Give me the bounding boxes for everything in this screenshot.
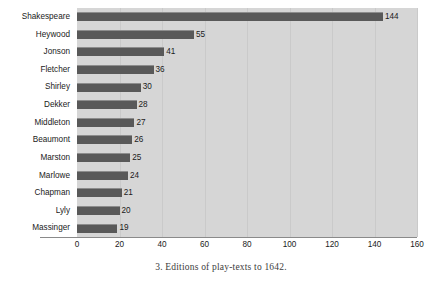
bar-value-label: 41	[164, 43, 175, 60]
bar-container: 55	[77, 26, 417, 43]
bar	[77, 188, 122, 197]
bar-row: Lyly20	[0, 202, 442, 219]
bar-row: Marlowe24	[0, 167, 442, 184]
category-label: Middleton	[0, 114, 70, 131]
x-axis-line	[40, 237, 417, 238]
bar-value-label: 25	[130, 149, 141, 166]
category-label: Marlowe	[0, 167, 70, 184]
category-label: Heywood	[0, 26, 70, 43]
bar	[77, 135, 132, 144]
bar-value-label: 27	[134, 114, 145, 131]
bar	[77, 100, 137, 109]
category-label: Dekker	[0, 96, 70, 113]
bar-row: Middleton27	[0, 114, 442, 131]
bar-value-label: 144	[383, 8, 399, 25]
bar-container: 26	[77, 131, 417, 148]
bar-chart-figure: Shakespeare144Heywood55Jonson41Fletcher3…	[0, 0, 442, 283]
bar-row: Jonson41	[0, 43, 442, 60]
figure-caption: 3. Editions of play-texts to 1642.	[0, 262, 442, 272]
category-label: Shirley	[0, 78, 70, 95]
bar-container: 21	[77, 184, 417, 201]
bar-row: Heywood55	[0, 26, 442, 43]
bar-value-label: 30	[141, 78, 152, 95]
bar-container: 144	[77, 8, 417, 25]
bar-row: Shakespeare144	[0, 8, 442, 25]
bar-row: Shirley30	[0, 78, 442, 95]
x-tick-label: 160	[410, 240, 424, 249]
category-label: Jonson	[0, 43, 70, 60]
bar-value-label: 21	[122, 184, 133, 201]
bar-row: Massinger19	[0, 219, 442, 236]
x-tick-label: 20	[115, 240, 124, 249]
bar-container: 30	[77, 78, 417, 95]
x-tick-label: 60	[200, 240, 209, 249]
bar-row: Chapman21	[0, 184, 442, 201]
bar	[77, 171, 128, 180]
bar-value-label: 36	[154, 61, 165, 78]
bar-row: Fletcher36	[0, 61, 442, 78]
bar-container: 24	[77, 167, 417, 184]
x-tick-label: 100	[283, 240, 297, 249]
bar	[77, 12, 383, 21]
x-tick-label: 80	[242, 240, 251, 249]
bar	[77, 224, 117, 233]
bar	[77, 206, 120, 215]
bar-value-label: 55	[194, 26, 205, 43]
category-label: Lyly	[0, 202, 70, 219]
bar-container: 19	[77, 219, 417, 236]
bar-value-label: 19	[117, 219, 128, 236]
bar-value-label: 24	[128, 167, 139, 184]
bar	[77, 153, 130, 162]
bar-value-label: 20	[120, 202, 131, 219]
bar	[77, 118, 134, 127]
x-tick-label: 0	[75, 240, 80, 249]
bar-row: Marston25	[0, 149, 442, 166]
x-tick-label: 120	[325, 240, 339, 249]
bar-value-label: 28	[137, 96, 148, 113]
bar-row: Dekker28	[0, 96, 442, 113]
bar-container: 27	[77, 114, 417, 131]
bar	[77, 47, 164, 56]
bar	[77, 83, 141, 92]
category-label: Fletcher	[0, 61, 70, 78]
x-tick-label: 40	[157, 240, 166, 249]
bar-row: Beaumont26	[0, 131, 442, 148]
bar-container: 28	[77, 96, 417, 113]
category-label: Beaumont	[0, 131, 70, 148]
bar-value-label: 26	[132, 131, 143, 148]
category-label: Marston	[0, 149, 70, 166]
bar-container: 25	[77, 149, 417, 166]
category-label: Massinger	[0, 219, 70, 236]
x-tick-label: 140	[368, 240, 382, 249]
bar-container: 41	[77, 43, 417, 60]
bar-container: 20	[77, 202, 417, 219]
category-label: Chapman	[0, 184, 70, 201]
bar-container: 36	[77, 61, 417, 78]
category-label: Shakespeare	[0, 8, 70, 25]
bar	[77, 30, 194, 39]
bar	[77, 65, 154, 74]
